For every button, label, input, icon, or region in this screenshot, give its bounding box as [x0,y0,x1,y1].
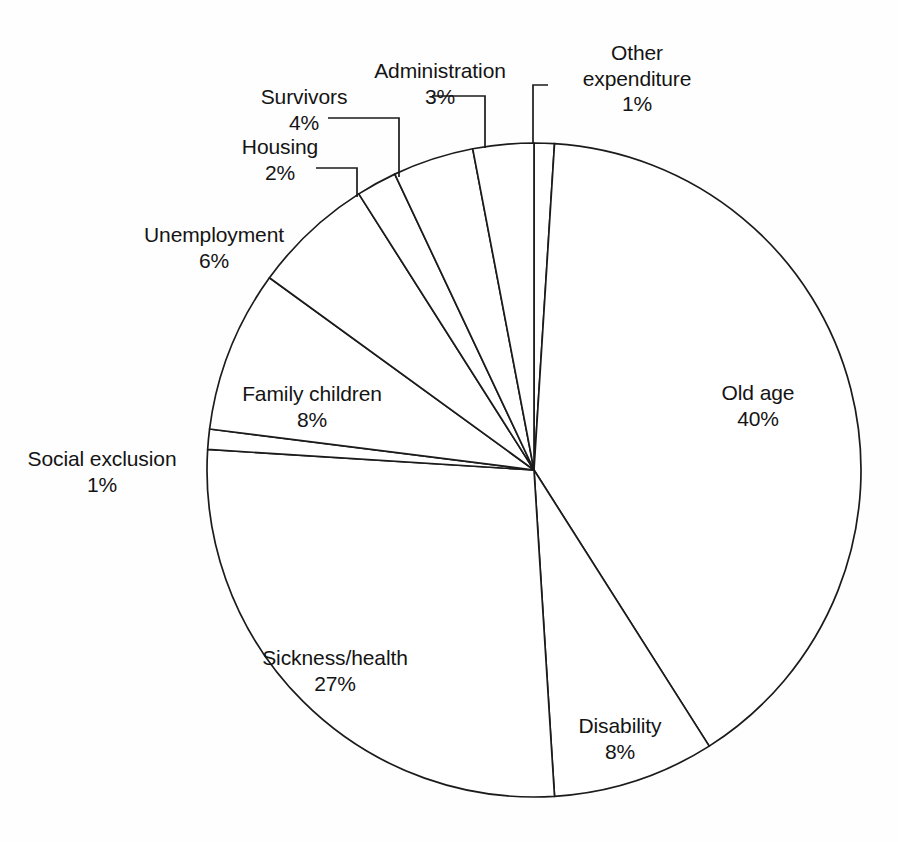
pie-chart-figure: Other expenditure 1% Administration 3% S… [0,0,898,842]
label-other-expenditure-name-line1: Other [562,40,712,66]
label-other-expenditure-pct: 1% [562,91,712,117]
label-other-expenditure-name-line2: expenditure [562,66,712,92]
label-administration: Administration 3% [360,58,520,109]
label-survivors: Survivors 4% [248,84,360,135]
label-survivors-pct: 4% [248,110,360,136]
label-old-age-pct: 40% [700,406,816,432]
label-disability-name: Disability [560,713,680,739]
label-old-age-name: Old age [700,380,816,406]
label-family-children: Family children 8% [229,381,395,432]
label-unemployment-name: Unemployment [131,222,297,248]
label-sickness-health: Sickness/health 27% [248,645,422,696]
label-unemployment: Unemployment 6% [131,222,297,273]
label-other-expenditure: Other expenditure 1% [562,40,712,117]
label-social-exclusion: Social exclusion 1% [12,446,192,497]
leader-line-other-expenditure [533,85,548,143]
label-housing-name: Housing [232,134,328,160]
slice-sickness-health[interactable] [207,449,555,797]
label-housing: Housing 2% [232,134,328,185]
label-family-children-pct: 8% [229,407,395,433]
label-disability: Disability 8% [560,713,680,764]
label-unemployment-pct: 6% [131,248,297,274]
label-sickness-health-name: Sickness/health [248,645,422,671]
label-sickness-health-pct: 27% [248,671,422,697]
label-social-exclusion-pct: 1% [12,472,192,498]
label-old-age: Old age 40% [700,380,816,431]
label-family-children-name: Family children [229,381,395,407]
label-survivors-name: Survivors [248,84,360,110]
label-administration-pct: 3% [360,84,520,110]
label-disability-pct: 8% [560,739,680,765]
label-housing-pct: 2% [232,160,328,186]
label-administration-name: Administration [360,58,520,84]
pie-slices [207,143,861,797]
label-social-exclusion-name: Social exclusion [12,446,192,472]
